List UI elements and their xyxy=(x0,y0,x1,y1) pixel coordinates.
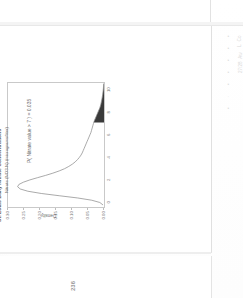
figure-title: St. Louis Daily Nitrate Concentrations xyxy=(0,74,2,222)
margin-note-2: Aw xyxy=(238,53,244,59)
margin-note-0: Co xyxy=(238,36,244,42)
x-tick-label: 0 xyxy=(106,201,111,203)
x-tick-label: 8 xyxy=(106,111,111,113)
y-tick-mark xyxy=(55,208,56,210)
scanned-page-background: Co L Aw 27/28 • • • • • · • St. Louis Da… xyxy=(0,0,243,298)
margin-dot-6: • xyxy=(227,106,229,111)
x-tick-label: 6 xyxy=(106,134,111,136)
page-number: 236 xyxy=(70,281,76,291)
y-tick-label: 0.00 xyxy=(101,211,106,219)
y-tick-label: 0.05 xyxy=(85,211,90,219)
margin-annotation-group: Co L Aw 27/28 xyxy=(230,32,242,65)
y-tick-mark xyxy=(23,208,24,210)
margin-dot-1: • xyxy=(227,46,229,51)
plot-area: P( Nitrate value > 7 ) = 0.035 xyxy=(7,82,105,208)
x-axis-title: Nitrate (NO3-N) (micrograms/liter) xyxy=(4,98,9,222)
density-figure: St. Louis Daily Nitrate Concentrations 0… xyxy=(0,74,134,222)
y-axis-title: Density xyxy=(19,213,79,218)
margin-dot-5: · xyxy=(227,94,229,99)
x-tick-label: 2 xyxy=(106,179,111,181)
y-tick-mark xyxy=(39,208,40,210)
previous-page-edge xyxy=(0,0,211,23)
probability-annotation: P( Nitrate value > 7 ) = 0.035 xyxy=(26,99,32,163)
figure-rotated-wrapper: St. Louis Daily Nitrate Concentrations 0… xyxy=(0,82,142,222)
margin-note-1: L xyxy=(238,44,244,47)
density-curve-svg xyxy=(8,83,104,207)
next-page-edge xyxy=(0,256,212,298)
margin-dot-4: • xyxy=(227,82,229,87)
y-tick-mark xyxy=(87,208,88,210)
margin-code: 27/28 xyxy=(238,61,244,73)
margin-dot-0: • xyxy=(227,34,229,39)
x-tick-label: 4 xyxy=(106,156,111,158)
margin-dot-column: • • • • • · • xyxy=(227,34,229,111)
x-axis: 0246810 xyxy=(103,84,121,208)
margin-dot-2: • xyxy=(227,58,229,63)
x-tick-label: 10 xyxy=(106,87,111,92)
margin-dot-3: • xyxy=(227,70,229,75)
y-tick-mark xyxy=(71,208,72,210)
page-bottom-edge xyxy=(0,252,211,254)
y-tick-mark xyxy=(103,208,104,210)
